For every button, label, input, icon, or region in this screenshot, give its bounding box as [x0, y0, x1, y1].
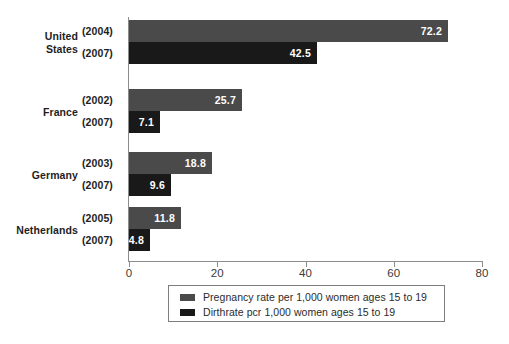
legend-swatch	[180, 309, 195, 316]
x-tick-label: 60	[387, 267, 400, 279]
horizontal-bar-chart: 020406080 UnitedStates(2004)(2007)France…	[0, 0, 509, 344]
bar-pregnancy: 72.2	[129, 20, 448, 42]
legend-item: Dirthrate pcr 1,000 women ages 15 to 19	[180, 305, 444, 319]
year-label: (2003)	[82, 157, 128, 169]
bar-value-label: 7.1	[139, 116, 154, 128]
x-tick-label: 20	[211, 267, 224, 279]
bar-value-label: 11.8	[154, 212, 175, 224]
country-label: France	[6, 106, 78, 119]
bar-pregnancy: 18.8	[129, 152, 212, 174]
bar-value-label: 72.2	[421, 25, 442, 37]
x-tick-label: 80	[475, 267, 488, 279]
legend-label: Dirthrate pcr 1,000 women ages 15 to 19	[203, 306, 395, 318]
bar-pregnancy: 11.8	[129, 207, 181, 229]
year-label: (2005)	[82, 212, 128, 224]
country-label: UnitedStates	[6, 30, 78, 55]
country-label: Germany	[6, 169, 78, 182]
country-label-line: Netherlands	[6, 224, 78, 237]
year-label: (2007)	[82, 179, 128, 191]
bar-pregnancy: 25.7	[129, 89, 242, 111]
year-label: (2002)	[82, 94, 128, 106]
year-label: (2007)	[82, 234, 128, 246]
chart-legend: Pregnancy rate per 1,000 women ages 15 t…	[168, 285, 445, 322]
legend-swatch	[180, 294, 195, 301]
bar-value-label: 9.6	[150, 179, 165, 191]
legend-label: Pregnancy rate per 1,000 women ages 15 t…	[203, 291, 427, 303]
x-tick-label: 0	[126, 267, 133, 279]
bar-value-label: 25.7	[215, 94, 236, 106]
country-label-line: France	[6, 106, 78, 119]
x-tick-label: 40	[299, 267, 312, 279]
country-label-line: Germany	[6, 169, 78, 182]
legend-item: Pregnancy rate per 1,000 women ages 15 t…	[180, 290, 444, 304]
bar-birth: 4.8	[129, 229, 150, 251]
bar-birth: 9.6	[129, 174, 171, 196]
bar-value-label: 42.5	[290, 47, 311, 59]
country-label-line: United	[6, 30, 78, 43]
bar-birth: 7.1	[129, 111, 160, 133]
year-label: (2007)	[82, 47, 128, 59]
bar-birth: 42.5	[129, 42, 317, 64]
country-label: Netherlands	[6, 224, 78, 237]
year-label: (2007)	[82, 116, 128, 128]
country-label-line: States	[6, 43, 78, 56]
bar-value-label: 4.8	[129, 234, 144, 246]
bar-value-label: 18.8	[185, 157, 206, 169]
year-label: (2004)	[82, 25, 128, 37]
